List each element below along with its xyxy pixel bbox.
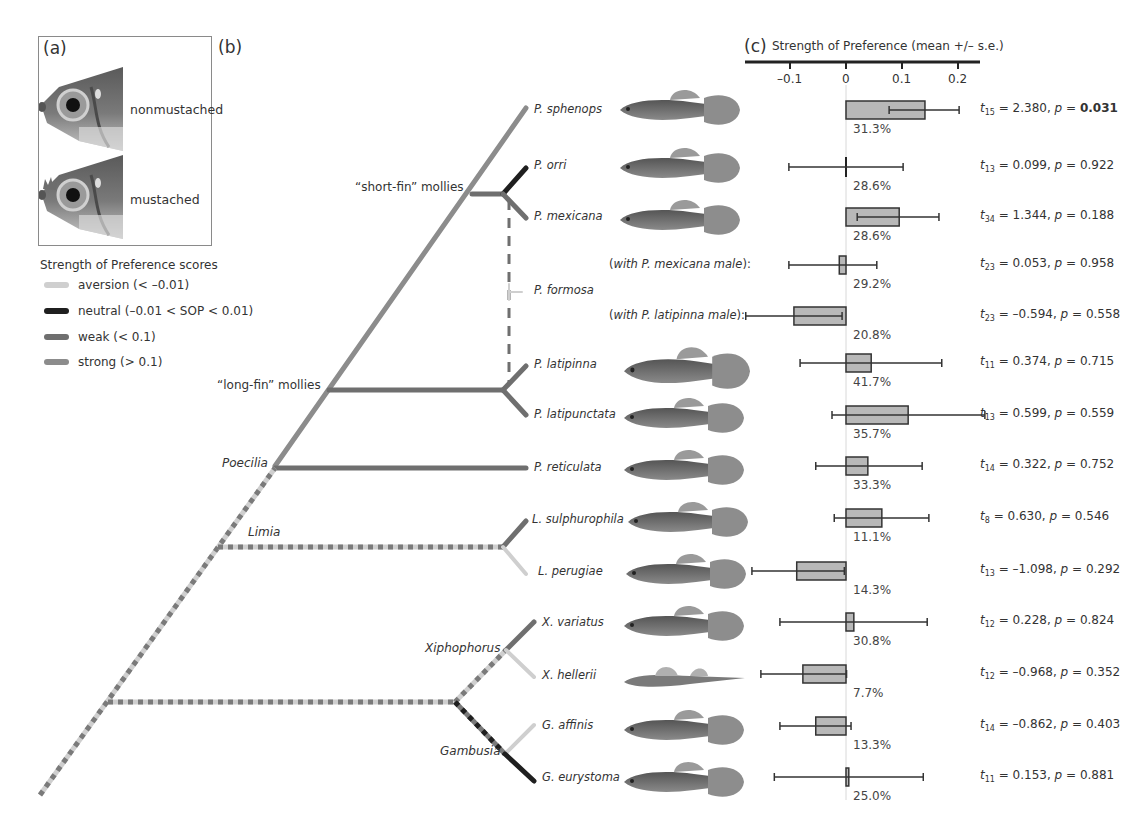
percent-label: 7.7% [853,686,884,700]
t-test-stat: t15 = 2.380, p = 0.031 [980,101,1118,117]
percent-label: 33.3% [853,478,891,492]
percent-label: 28.6% [853,179,891,193]
t-test-stat: t13 = 0.599, p = 0.559 [980,406,1114,422]
t-test-stat: t11 = 0.153, p = 0.881 [980,768,1114,784]
t-test-stat: t14 = –0.862, p = 0.403 [980,717,1120,733]
tick-label: 0.2 [948,72,967,86]
tick-label: 0.1 [892,72,911,86]
t-test-stat: t8 = 0.630, p = 0.546 [980,509,1109,525]
t-test-stat: t14 = 0.322, p = 0.752 [980,457,1114,473]
t-test-stat: t13 = 0.099, p = 0.922 [980,158,1114,174]
t-test-stat: t12 = –0.968, p = 0.352 [980,665,1120,681]
percent-label: 28.6% [853,229,891,243]
percent-label: 14.3% [853,583,891,597]
t-test-stat: t34 = 1.344, p = 0.188 [980,208,1114,224]
preference-plot [0,0,1136,830]
percent-label: 13.3% [853,738,891,752]
t-test-stat: t23 = 0.053, p = 0.958 [980,256,1114,272]
t-test-stat: t23 = –0.594, p = 0.558 [980,307,1120,323]
percent-label: 30.8% [853,634,891,648]
t-test-stat: t12 = 0.228, p = 0.824 [980,613,1114,629]
percent-label: 31.3% [853,122,891,136]
tick-label: –0.1 [777,72,802,86]
percent-label: 11.1% [853,530,891,544]
percent-label: 35.7% [853,427,891,441]
t-test-stat: t11 = 0.374, p = 0.715 [980,354,1114,370]
t-test-stat: t13 = –1.098, p = 0.292 [980,562,1120,578]
percent-label: 29.2% [853,277,891,291]
percent-label: 41.7% [853,375,891,389]
tick-label: 0 [842,72,850,86]
percent-label: 20.8% [853,328,891,342]
percent-label: 25.0% [853,789,891,803]
